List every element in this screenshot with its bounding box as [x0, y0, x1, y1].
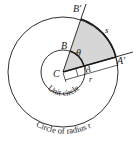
- label-r: r: [89, 75, 93, 84]
- label-B-prime: B′: [73, 3, 82, 14]
- label-unit-circle: Unit circle: [46, 83, 81, 98]
- label-C: C: [53, 68, 60, 79]
- label-theta: θ: [76, 47, 81, 58]
- label-A: A: [85, 65, 91, 74]
- label-B: B: [61, 40, 67, 51]
- dimension-tick-mid: [76, 69, 78, 76]
- label-A-prime: A′: [116, 55, 126, 66]
- label-s: s: [105, 25, 109, 35]
- sector-diagram: B′ B θ s C A A′ r Unit circle Circle of …: [0, 0, 137, 148]
- dimension-tick-left: [63, 73, 66, 82]
- label-outer-circle: Circle of radius r: [35, 119, 93, 136]
